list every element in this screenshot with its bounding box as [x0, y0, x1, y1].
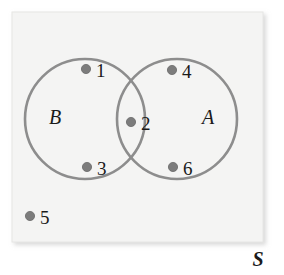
venn-diagram-canvas: B A 123456 S [0, 0, 284, 275]
element-label: 2 [141, 113, 151, 134]
element-dot [81, 64, 90, 73]
element-dot [82, 162, 91, 171]
universal-set-label: S [252, 248, 263, 270]
venn-diagram-figure: B A 123456 S [0, 0, 284, 275]
element-dot [126, 117, 135, 126]
set-label-a: A [200, 106, 215, 128]
element-label: 5 [40, 207, 50, 228]
element-dot [25, 211, 34, 220]
element-dot [168, 162, 177, 171]
element-dot [167, 65, 176, 74]
element-label: 1 [96, 60, 106, 81]
element-label: 6 [183, 158, 193, 179]
element-label: 3 [97, 158, 107, 179]
set-label-b: B [49, 106, 61, 128]
element-label: 4 [182, 61, 192, 82]
